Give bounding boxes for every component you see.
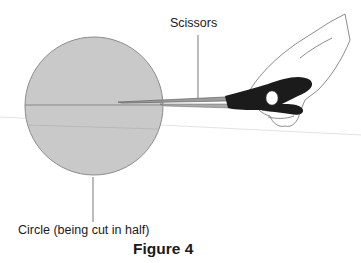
scissors-label: Scissors	[170, 16, 217, 30]
circle-label: Circle (being cut in half)	[18, 223, 149, 237]
figure-caption: Figure 4	[133, 240, 193, 258]
paper-circle	[25, 37, 163, 175]
